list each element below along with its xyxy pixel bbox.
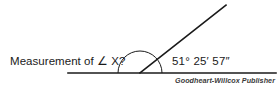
angle-measurement-figure: Measurement of ∠ X? 51° 25′ 57″ Goodhear… [0, 0, 280, 94]
publisher-credit: Goodheart-Willcox Publisher [175, 77, 275, 84]
question-label: Measurement of ∠ X? [10, 56, 126, 68]
angle-measurement-value: 51° 25′ 57″ [172, 56, 230, 68]
